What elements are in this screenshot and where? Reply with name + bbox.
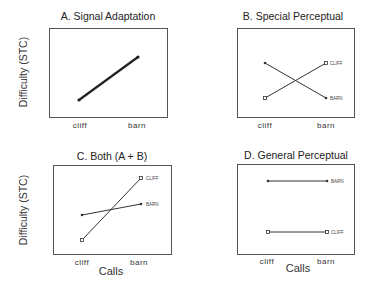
panel-c: C. Both (A + B) CLIFF BARN cliff barn Ca… — [17, 150, 172, 277]
panel-b-plot-area — [238, 29, 355, 118]
panel-b-xtick-cliff: cliff — [258, 121, 273, 130]
panel-c-barn-point-barn — [140, 203, 143, 206]
panel-b-barn-point-cliff — [264, 62, 267, 65]
figure: A. Signal Adaptation cliff barn Difficul… — [0, 0, 365, 283]
panel-d-barn-point-barn — [326, 180, 329, 183]
panel-c-barn-line — [82, 204, 141, 215]
panel-a-point-barn — [136, 55, 139, 58]
panel-b-barn-point-barn — [325, 97, 328, 100]
panel-d-label-cliff: CLIFF — [331, 230, 344, 235]
panel-a-xtick-barn: barn — [128, 121, 146, 130]
panel-a-plot-area — [50, 29, 168, 118]
panel-d-cliff-point-barn — [326, 231, 329, 234]
panel-d-xtick-barn: barn — [317, 257, 335, 266]
panel-d-cliff-point-cliff — [267, 231, 270, 234]
panel-d-title: D. General Perceptual — [244, 149, 348, 161]
panel-c-barn-point-cliff — [81, 214, 84, 217]
panel-c-cliff-point-barn — [140, 177, 143, 180]
panel-c-xtick-cliff: cliff — [75, 258, 90, 267]
panel-a: A. Signal Adaptation cliff barn Difficul… — [17, 10, 168, 130]
panel-b-cliff-point-barn — [325, 62, 328, 65]
panel-a-line — [79, 57, 138, 100]
panel-c-xlabel: Calls — [99, 265, 124, 277]
panel-a-xtick-cliff: cliff — [73, 121, 88, 130]
panel-c-cliff-point-cliff — [81, 239, 84, 242]
panel-c-label-barn: BARN — [146, 202, 159, 207]
panel-c-title: C. Both (A + B) — [77, 150, 147, 162]
panel-b-xtick-barn: barn — [317, 121, 335, 130]
panel-d-label-barn: BARN — [331, 179, 344, 184]
panel-d-xlabel: Calls — [286, 262, 311, 274]
panel-d-xtick-cliff: cliff — [260, 257, 275, 266]
panel-b-title: B. Special Perceptual — [243, 10, 343, 22]
panel-c-label-cliff: CLIFF — [146, 176, 159, 181]
panel-c-ylabel: Difficulty (STC) — [17, 175, 29, 245]
panel-d-barn-point-cliff — [267, 180, 270, 183]
panel-a-title: A. Signal Adaptation — [61, 10, 156, 22]
panel-d: D. General Perceptual BARN CLIFF cliff b… — [238, 149, 355, 274]
panel-b-cliff-point-cliff — [264, 97, 267, 100]
panel-b-label-cliff: CLIFF — [330, 61, 343, 66]
panel-d-plot-area — [238, 165, 355, 255]
panel-c-xtick-barn: barn — [130, 258, 148, 267]
panel-b-label-barn: BARN — [330, 96, 343, 101]
panel-b: B. Special Perceptual CLIFF BARN cliff b… — [238, 10, 355, 130]
panel-a-point-cliff — [77, 98, 80, 101]
panel-a-ylabel: Difficulty (STC) — [17, 37, 29, 107]
